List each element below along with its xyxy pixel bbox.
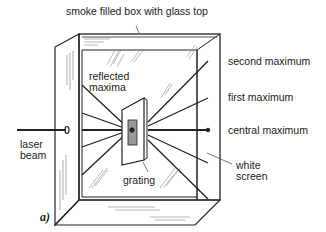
- central-maximum-label: central maximum: [228, 125, 308, 136]
- laser-beam: [17, 127, 210, 134]
- box-label: smoke filled box with glass top: [66, 6, 208, 17]
- first-maximum-label: first maximum: [228, 92, 293, 103]
- panel-label: a): [40, 210, 50, 225]
- reflected-maxima-label: reflected maxima: [89, 71, 129, 93]
- second-maximum-label: second maximum: [228, 56, 310, 67]
- laser-beam-label: laser beam: [20, 139, 46, 161]
- white-screen-label: white screen: [236, 160, 268, 182]
- grating-label: grating: [123, 175, 155, 186]
- grating: [122, 98, 147, 165]
- diffraction-grating-diagram: [0, 0, 326, 232]
